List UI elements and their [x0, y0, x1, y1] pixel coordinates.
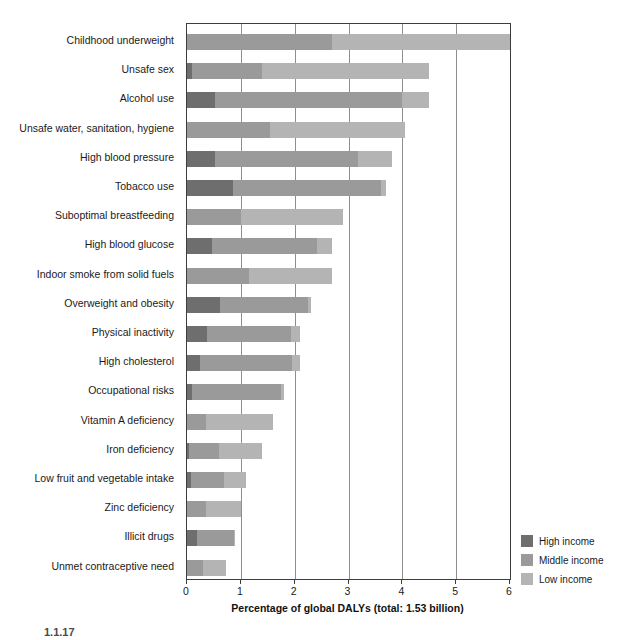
bar-segment-high-income [187, 151, 215, 167]
stacked-bar [187, 414, 273, 430]
stacked-bar [187, 268, 332, 284]
bar-segment-middle-income [215, 151, 358, 167]
x-tick-label: 0 [183, 585, 189, 597]
bar-row [187, 319, 510, 348]
stacked-bar [187, 63, 429, 79]
bar-row [187, 377, 510, 406]
bar-segment-middle-income [187, 122, 270, 138]
x-tick-mark [509, 579, 510, 584]
bar-segment-middle-income [192, 384, 281, 400]
legend-swatch-icon [521, 573, 533, 585]
bar-segment-high-income [187, 297, 220, 313]
x-tick-label: 3 [345, 585, 351, 597]
x-axis-ticks: 0123456 [186, 579, 509, 599]
bar-segment-low-income [224, 472, 247, 488]
bar-row [187, 436, 510, 465]
bar-segment-low-income [241, 209, 343, 225]
y-axis-label: Vitamin A deficiency [0, 406, 180, 435]
y-axis-label: Iron deficiency [0, 435, 180, 464]
y-axis-label: High blood pressure [0, 143, 180, 172]
y-axis-label: High cholesterol [0, 347, 180, 376]
x-tick-mark [348, 579, 349, 584]
y-axis-label: Low fruit and vegetable intake [0, 464, 180, 493]
stacked-bar [187, 92, 429, 108]
stacked-bar [187, 151, 392, 167]
legend-label: Middle income [539, 555, 603, 566]
bar-segment-middle-income [187, 209, 241, 225]
y-axis-label: Suboptimal breastfeeding [0, 201, 180, 230]
stacked-bar [187, 297, 311, 313]
stacked-bar [187, 180, 386, 196]
bar-segment-low-income [292, 355, 300, 371]
y-axis-label: Zinc deficiency [0, 493, 180, 522]
bar-row [187, 523, 510, 552]
bar-segment-middle-income [189, 443, 219, 459]
x-tick-mark [186, 579, 187, 584]
legend-item[interactable]: Middle income [521, 551, 621, 569]
figure-caption: 1.1.17 [44, 626, 75, 638]
x-tick-mark [455, 579, 456, 584]
bar-segment-low-income [358, 151, 392, 167]
x-tick-label: 2 [291, 585, 297, 597]
bar-segment-middle-income [220, 297, 308, 313]
bar-segment-low-income [249, 268, 332, 284]
stacked-bar [187, 384, 284, 400]
bar-segment-middle-income [187, 268, 249, 284]
bar-row [187, 290, 510, 319]
y-axis-category-labels: Childhood underweightUnsafe sexAlcohol u… [0, 23, 180, 578]
stacked-bar [187, 472, 246, 488]
y-axis-label: High blood glucose [0, 230, 180, 259]
bar-segment-low-income [291, 326, 300, 342]
bar-segment-high-income [187, 326, 207, 342]
bar-segment-high-income [187, 238, 212, 254]
stacked-bar [187, 443, 262, 459]
bar-row [187, 407, 510, 436]
bar-row [187, 261, 510, 290]
bar-segment-high-income [187, 180, 233, 196]
x-tick-mark [294, 579, 295, 584]
legend-item[interactable]: Low income [521, 570, 621, 588]
bar-segment-low-income [219, 443, 262, 459]
bar-segment-middle-income [187, 560, 203, 576]
x-tick-label: 4 [398, 585, 404, 597]
bar-rows [187, 24, 510, 579]
stacked-bar [187, 530, 235, 546]
bar-segment-middle-income [187, 34, 332, 50]
legend-label: High income [539, 536, 595, 547]
bar-segment-low-income [381, 180, 386, 196]
bar-row [187, 85, 510, 114]
bar-segment-middle-income [191, 472, 223, 488]
plot-area [186, 23, 511, 580]
bar-row [187, 202, 510, 231]
bar-row [187, 27, 510, 56]
y-axis-label: Overweight and obesity [0, 289, 180, 318]
bar-segment-middle-income [215, 92, 402, 108]
bar-segment-low-income [206, 501, 241, 517]
bar-segment-low-income [234, 530, 235, 546]
stacked-bar [187, 501, 241, 517]
bar-segment-middle-income [192, 63, 262, 79]
y-axis-label: Childhood underweight [0, 26, 180, 55]
legend-swatch-icon [521, 554, 533, 566]
stacked-bar [187, 34, 510, 50]
bar-segment-low-income [206, 414, 273, 430]
stacked-bar [187, 326, 300, 342]
bar-segment-low-income [402, 92, 429, 108]
stacked-bar [187, 209, 343, 225]
y-axis-label: Unsafe sex [0, 55, 180, 84]
y-axis-label: Unmet contraceptive need [0, 552, 180, 581]
y-axis-label: Illicit drugs [0, 522, 180, 551]
bar-segment-low-income [332, 34, 510, 50]
x-tick-label: 6 [506, 585, 512, 597]
y-axis-label: Alcohol use [0, 84, 180, 113]
bar-segment-low-income [317, 238, 332, 254]
bar-segment-middle-income [187, 414, 206, 430]
bar-row [187, 56, 510, 85]
bar-segment-middle-income [207, 326, 290, 342]
bar-row [187, 173, 510, 202]
bar-row [187, 465, 510, 494]
bar-row [187, 553, 510, 582]
bar-segment-middle-income [187, 501, 206, 517]
legend-item[interactable]: High income [521, 532, 621, 550]
y-axis-label: Occupational risks [0, 376, 180, 405]
